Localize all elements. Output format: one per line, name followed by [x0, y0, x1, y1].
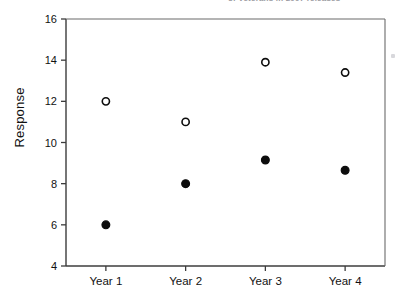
data-point-open — [342, 69, 349, 76]
x-tick-label: Year 1 — [89, 275, 122, 287]
data-point-filled — [182, 180, 190, 188]
y-tick-label: 10 — [45, 137, 57, 149]
data-markers — [102, 59, 349, 229]
scatter-chart: of Veterans in 2007 releases Response 46… — [0, 0, 406, 301]
plot-area: 46810121416 Year 1Year 2Year 3Year 4 — [0, 0, 406, 301]
y-tick-label: 16 — [45, 13, 57, 25]
y-tick-label: 8 — [51, 178, 57, 190]
x-tick-label: Year 3 — [249, 275, 282, 287]
y-axis-ticks: 46810121416 — [45, 13, 66, 272]
x-tick-label: Year 4 — [329, 275, 362, 287]
x-tick-label: Year 2 — [169, 275, 202, 287]
y-tick-label: 12 — [45, 95, 57, 107]
data-point-open — [102, 98, 109, 105]
plot-frame — [66, 19, 385, 266]
y-tick-label: 14 — [45, 54, 57, 66]
data-point-open — [182, 118, 189, 125]
data-point-open — [262, 59, 269, 66]
data-point-filled — [261, 156, 269, 164]
y-tick-label: 4 — [51, 260, 57, 272]
x-axis-ticks: Year 1Year 2Year 3Year 4 — [89, 266, 362, 287]
data-point-filled — [102, 221, 110, 229]
y-tick-label: 6 — [51, 219, 57, 231]
data-point-filled — [341, 166, 349, 174]
